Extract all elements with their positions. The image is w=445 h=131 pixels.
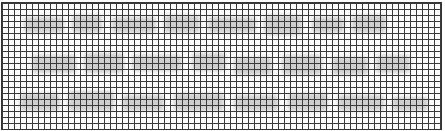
grid-overlay xyxy=(2,3,441,129)
grid-image-frame xyxy=(1,2,442,130)
